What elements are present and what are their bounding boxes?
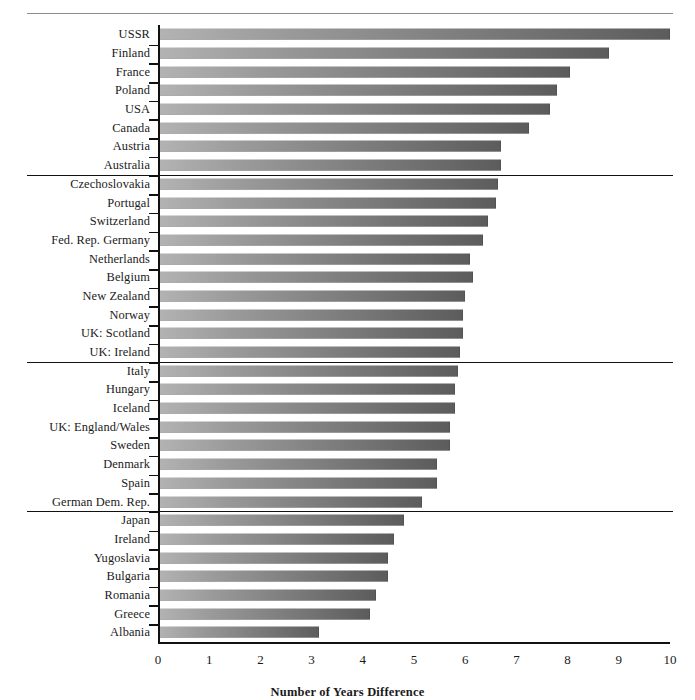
category-label: Belgium: [107, 270, 150, 285]
category-label: Australia: [104, 158, 150, 173]
category-label: Romania: [105, 587, 150, 602]
bar: [158, 421, 450, 432]
bar-container: [158, 29, 670, 40]
bar-container: [158, 347, 670, 358]
bar-row: [158, 343, 670, 362]
bar-row: [158, 511, 670, 530]
y-axis-tick-mark: [149, 624, 158, 626]
bar: [158, 589, 376, 600]
category-label: Poland: [115, 83, 150, 98]
bar: [158, 234, 483, 245]
bar: [158, 459, 437, 470]
x-tick-label: 10: [664, 652, 677, 668]
category-label-row: UK: Ireland: [0, 343, 158, 362]
bar-row: [158, 548, 670, 567]
category-label: Denmark: [103, 457, 150, 472]
bar: [158, 290, 465, 301]
y-axis-tick-mark: [149, 493, 158, 495]
y-axis-tick-mark: [149, 232, 158, 234]
y-axis-tick-mark: [149, 157, 158, 159]
category-label: Portugal: [107, 195, 150, 210]
y-axis-tick-mark: [149, 549, 158, 551]
top-divider-rule: [27, 13, 673, 14]
category-label: Canada: [112, 120, 150, 135]
bar-row: [158, 193, 670, 212]
y-axis-tick-mark: [149, 381, 158, 383]
category-label: Bulgaria: [107, 569, 150, 584]
bar-row: [158, 81, 670, 100]
category-label: Czechoslovakia: [70, 176, 150, 191]
bar-container: [158, 384, 670, 395]
category-label-row: Sweden: [0, 436, 158, 455]
bar-container: [158, 272, 670, 283]
y-axis-tick-mark: [149, 568, 158, 570]
category-label: Greece: [114, 606, 150, 621]
category-label: UK: Ireland: [89, 345, 150, 360]
bar-row: [158, 62, 670, 81]
group-separator-rule: [27, 362, 673, 363]
bar: [158, 571, 388, 582]
bar-container: [158, 216, 670, 227]
category-label-row: Fed. Rep. Germany: [0, 231, 158, 250]
bar-container: [158, 440, 670, 451]
category-label: Spain: [121, 475, 150, 490]
bar: [158, 29, 670, 40]
category-label: Sweden: [110, 438, 150, 453]
bar-container: [158, 122, 670, 133]
y-axis-tick-mark: [149, 437, 158, 439]
category-label: UK: England/Wales: [49, 419, 150, 434]
y-axis-tick-mark: [149, 306, 158, 308]
bar-container: [158, 403, 670, 414]
bar: [158, 272, 473, 283]
category-label: USA: [125, 102, 150, 117]
bar-container: [158, 104, 670, 115]
bar: [158, 253, 470, 264]
bar-row: [158, 474, 670, 493]
bar-container: [158, 608, 670, 619]
category-label-row: Canada: [0, 118, 158, 137]
category-label-row: Yugoslavia: [0, 548, 158, 567]
category-label: Albania: [110, 625, 150, 640]
bar: [158, 552, 388, 563]
category-label-row: Belgium: [0, 268, 158, 287]
category-label-row: Iceland: [0, 399, 158, 418]
bar-container: [158, 496, 670, 507]
bar-container: [158, 552, 670, 563]
category-label-row: Poland: [0, 81, 158, 100]
bar: [158, 347, 460, 358]
bar-container: [158, 309, 670, 320]
bar: [158, 627, 319, 638]
y-axis-tick-mark: [149, 587, 158, 589]
y-axis-tick-mark: [149, 605, 158, 607]
y-axis-tick-mark: [149, 194, 158, 196]
bar: [158, 178, 498, 189]
category-label-row: Czechoslovakia: [0, 175, 158, 194]
bar-row: [158, 492, 670, 511]
y-axis-tick-mark: [149, 45, 158, 47]
bar-row: [158, 212, 670, 231]
bar: [158, 477, 437, 488]
bar-container: [158, 66, 670, 77]
bar-row: [158, 399, 670, 418]
bar-row: [158, 44, 670, 63]
y-axis-tick-mark: [149, 119, 158, 121]
bar-container: [158, 627, 670, 638]
category-label-row: Australia: [0, 156, 158, 175]
y-axis-tick-mark: [149, 325, 158, 327]
bar-row: [158, 324, 670, 343]
category-label: Switzerland: [90, 214, 150, 229]
bar: [158, 85, 557, 96]
category-label: Ireland: [114, 531, 150, 546]
bar-container: [158, 141, 670, 152]
x-tick-label: 5: [411, 652, 418, 668]
y-axis-tick-mark: [149, 101, 158, 103]
category-label: Norway: [109, 307, 150, 322]
y-axis-tick-mark: [149, 288, 158, 290]
category-label: Japan: [121, 513, 150, 528]
y-axis-line: [158, 25, 160, 642]
category-label-row: France: [0, 62, 158, 81]
bar-row: [158, 137, 670, 156]
category-label: USSR: [119, 27, 150, 42]
bar-row: [158, 380, 670, 399]
bar: [158, 197, 496, 208]
